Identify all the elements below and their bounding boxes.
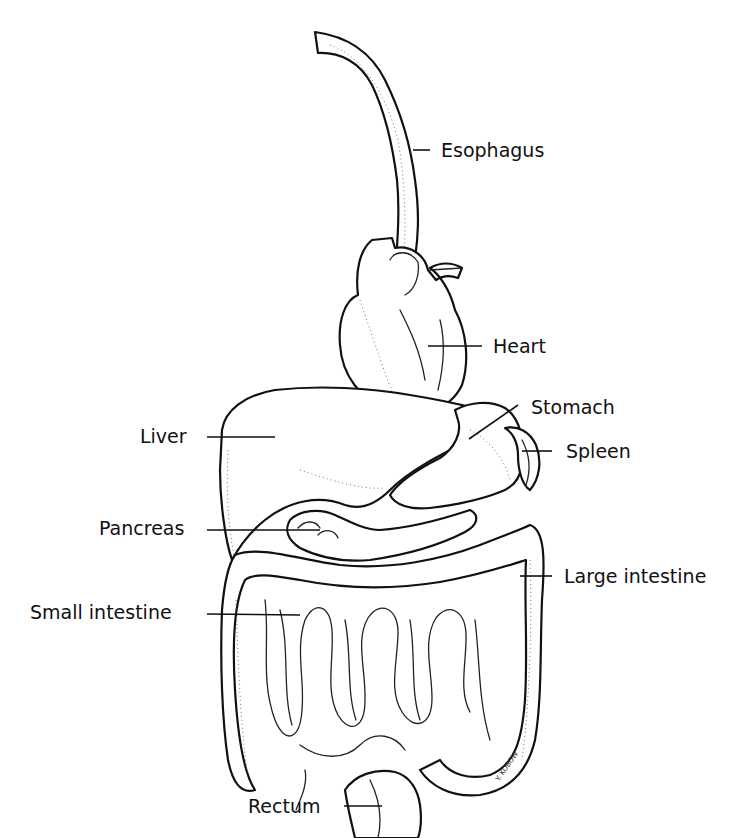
esophagus-organ: [315, 32, 418, 270]
label-rectum: Rectum: [248, 797, 320, 816]
label-pancreas: Pancreas: [99, 519, 184, 538]
label-stomach: Stomach: [531, 398, 615, 417]
heart-organ: [340, 238, 467, 414]
large-intestine-organ: [221, 525, 543, 795]
pancreas-organ: [287, 510, 476, 561]
label-heart: Heart: [493, 337, 546, 356]
label-esophagus: Esophagus: [441, 141, 544, 160]
leader-small-intestine: [207, 614, 300, 615]
label-small-intestine: Small intestine: [30, 603, 172, 622]
label-large-intestine: Large intestine: [564, 567, 706, 586]
label-liver: Liver: [140, 427, 187, 446]
rectum-organ: [345, 771, 421, 838]
digestive-system-illustration: [0, 0, 752, 838]
label-spleen: Spleen: [566, 442, 631, 461]
